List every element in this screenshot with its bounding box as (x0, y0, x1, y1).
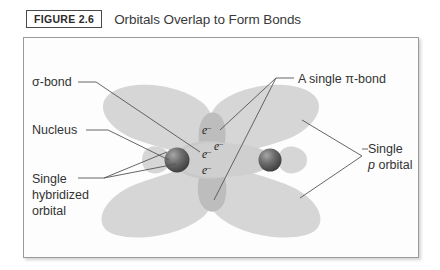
leader-line-p-orbital-upper (302, 120, 362, 156)
orbital-overlap-diagram: e– e– e– e– (24, 38, 416, 255)
figure-title: Orbitals Overlap to Form Bonds (114, 12, 301, 27)
figure-page: FIGURE 2.6 Orbitals Overlap to Form Bond… (0, 0, 440, 270)
label-single-p-line2: p orbital (367, 158, 412, 172)
label-single-hybridized-line3: orbital (32, 204, 66, 218)
label-sigma-bond: σ-bond (32, 75, 72, 89)
label-single-hybridized-line2: hybridized (32, 188, 89, 202)
label-pi-bond: A single π-bond (298, 72, 386, 86)
leader-line-p-orbital-lower (300, 156, 362, 198)
label-single-p-line1: Single (368, 142, 403, 156)
hybrid-orbital-back-lobe-right (278, 147, 307, 174)
label-nucleus: Nucleus (32, 123, 77, 137)
figure-number-badge: FIGURE 2.6 (26, 10, 102, 28)
label-single-hybridized-line1: Single (32, 172, 67, 186)
figure-frame: e– e– e– e– (23, 37, 419, 258)
nucleus-right (259, 149, 282, 172)
figure-header: FIGURE 2.6 Orbitals Overlap to Form Bond… (26, 9, 301, 29)
